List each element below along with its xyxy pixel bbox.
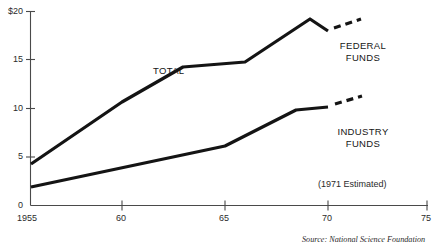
x-tick-label-1965: 65 (219, 214, 229, 223)
y-tick-label-0: 0 (0, 201, 23, 210)
x-tick-label-1955: 1955 (17, 214, 37, 223)
x-tick-label-1970: 70 (322, 214, 332, 223)
series-industry-solid (31, 107, 328, 187)
series-label-federal-funds-line2: FUNDS (327, 52, 399, 64)
estimated-note: (1971 Estimated) (318, 180, 387, 189)
series-label-federal-funds-line1: FEDERAL (327, 40, 399, 52)
series-total-projection (334, 19, 361, 28)
source-note: Source: National Science Foundation (302, 236, 425, 244)
y-tick-label-20: $20 (0, 7, 23, 16)
series-label-industry-funds: INDUSTRY FUNDS (327, 126, 399, 150)
y-tick-label-5: 5 (0, 152, 23, 161)
series-label-industry-funds-line2: FUNDS (327, 138, 399, 150)
series-label-industry-funds-line1: INDUSTRY (327, 126, 399, 138)
research-spending-line-chart: $20 15 10 5 0 1955 60 65 70 75 TOTAL FED… (0, 0, 438, 248)
y-tick-label-15: 15 (0, 55, 23, 64)
x-tick-label-1960: 60 (116, 214, 126, 223)
x-tick-label-1975: 75 (421, 214, 431, 223)
y-tick-label-10: 10 (0, 104, 23, 113)
chart-plot-area (0, 0, 438, 248)
series-label-federal-funds: FEDERAL FUNDS (327, 40, 399, 64)
series-label-total: TOTAL (153, 66, 185, 76)
series-total-solid (31, 19, 328, 164)
series-industry-projection (335, 96, 362, 104)
